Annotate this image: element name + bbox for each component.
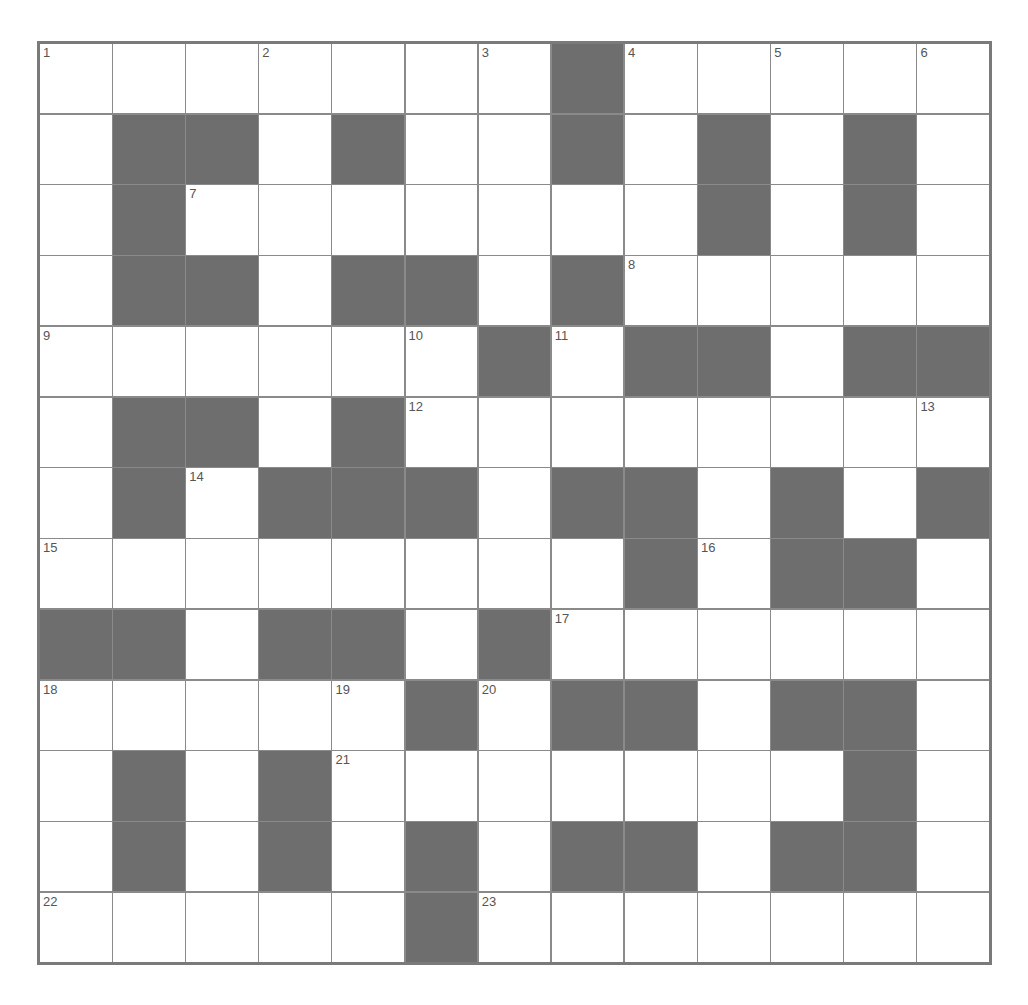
- answer-cell[interactable]: [771, 327, 843, 396]
- answer-cell[interactable]: [40, 398, 112, 467]
- answer-cell[interactable]: [406, 539, 478, 608]
- answer-cell[interactable]: [259, 327, 331, 396]
- answer-cell[interactable]: [479, 539, 551, 608]
- answer-cell[interactable]: [698, 681, 770, 750]
- answer-cell[interactable]: 19: [332, 681, 404, 750]
- answer-cell[interactable]: [113, 44, 185, 113]
- answer-cell[interactable]: 21: [332, 751, 404, 820]
- answer-cell[interactable]: [844, 610, 916, 679]
- answer-cell[interactable]: [844, 468, 916, 537]
- answer-cell[interactable]: [844, 256, 916, 325]
- answer-cell[interactable]: [771, 185, 843, 254]
- answer-cell[interactable]: [40, 822, 112, 891]
- answer-cell[interactable]: [259, 256, 331, 325]
- answer-cell[interactable]: [113, 539, 185, 608]
- answer-cell[interactable]: [332, 822, 404, 891]
- answer-cell[interactable]: 4: [625, 44, 697, 113]
- answer-cell[interactable]: [771, 893, 843, 962]
- answer-cell[interactable]: [406, 751, 478, 820]
- answer-cell[interactable]: 7: [186, 185, 258, 254]
- answer-cell[interactable]: [259, 398, 331, 467]
- answer-cell[interactable]: 8: [625, 256, 697, 325]
- answer-cell[interactable]: 17: [552, 610, 624, 679]
- answer-cell[interactable]: [113, 681, 185, 750]
- answer-cell[interactable]: [552, 185, 624, 254]
- answer-cell[interactable]: [917, 751, 989, 820]
- answer-cell[interactable]: [698, 893, 770, 962]
- answer-cell[interactable]: [625, 115, 697, 184]
- answer-cell[interactable]: [625, 610, 697, 679]
- answer-cell[interactable]: [186, 751, 258, 820]
- answer-cell[interactable]: [406, 44, 478, 113]
- answer-cell[interactable]: [552, 539, 624, 608]
- answer-cell[interactable]: [332, 327, 404, 396]
- answer-cell[interactable]: [917, 256, 989, 325]
- answer-cell[interactable]: [332, 44, 404, 113]
- answer-cell[interactable]: [479, 751, 551, 820]
- answer-cell[interactable]: [40, 115, 112, 184]
- answer-cell[interactable]: [259, 893, 331, 962]
- answer-cell[interactable]: [186, 893, 258, 962]
- answer-cell[interactable]: [698, 610, 770, 679]
- answer-cell[interactable]: [40, 751, 112, 820]
- answer-cell[interactable]: 12: [406, 398, 478, 467]
- answer-cell[interactable]: [186, 681, 258, 750]
- answer-cell[interactable]: [332, 185, 404, 254]
- answer-cell[interactable]: [844, 44, 916, 113]
- answer-cell[interactable]: 10: [406, 327, 478, 396]
- answer-cell[interactable]: 13: [917, 398, 989, 467]
- answer-cell[interactable]: [552, 751, 624, 820]
- answer-cell[interactable]: [917, 610, 989, 679]
- answer-cell[interactable]: [259, 185, 331, 254]
- answer-cell[interactable]: [186, 539, 258, 608]
- answer-cell[interactable]: [186, 610, 258, 679]
- answer-cell[interactable]: [552, 398, 624, 467]
- answer-cell[interactable]: [698, 256, 770, 325]
- answer-cell[interactable]: [186, 44, 258, 113]
- answer-cell[interactable]: [917, 115, 989, 184]
- answer-cell[interactable]: [917, 539, 989, 608]
- answer-cell[interactable]: [479, 256, 551, 325]
- answer-cell[interactable]: 16: [698, 539, 770, 608]
- answer-cell[interactable]: [259, 681, 331, 750]
- answer-cell[interactable]: [625, 751, 697, 820]
- answer-cell[interactable]: 1: [40, 44, 112, 113]
- answer-cell[interactable]: [332, 539, 404, 608]
- answer-cell[interactable]: [625, 185, 697, 254]
- answer-cell[interactable]: [113, 893, 185, 962]
- answer-cell[interactable]: [406, 185, 478, 254]
- answer-cell[interactable]: [771, 256, 843, 325]
- answer-cell[interactable]: [625, 893, 697, 962]
- answer-cell[interactable]: [844, 398, 916, 467]
- answer-cell[interactable]: [40, 256, 112, 325]
- answer-cell[interactable]: [771, 751, 843, 820]
- answer-cell[interactable]: 15: [40, 539, 112, 608]
- answer-cell[interactable]: [259, 539, 331, 608]
- answer-cell[interactable]: [917, 893, 989, 962]
- answer-cell[interactable]: [917, 681, 989, 750]
- answer-cell[interactable]: [332, 893, 404, 962]
- answer-cell[interactable]: [113, 327, 185, 396]
- answer-cell[interactable]: [698, 398, 770, 467]
- answer-cell[interactable]: 6: [917, 44, 989, 113]
- answer-cell[interactable]: 23: [479, 893, 551, 962]
- answer-cell[interactable]: 18: [40, 681, 112, 750]
- answer-cell[interactable]: [552, 893, 624, 962]
- answer-cell[interactable]: 22: [40, 893, 112, 962]
- answer-cell[interactable]: [917, 185, 989, 254]
- answer-cell[interactable]: [917, 822, 989, 891]
- answer-cell[interactable]: [40, 468, 112, 537]
- answer-cell[interactable]: [406, 610, 478, 679]
- answer-cell[interactable]: [406, 115, 478, 184]
- answer-cell[interactable]: [771, 115, 843, 184]
- answer-cell[interactable]: [259, 115, 331, 184]
- answer-cell[interactable]: [479, 115, 551, 184]
- answer-cell[interactable]: [771, 610, 843, 679]
- answer-cell[interactable]: [40, 185, 112, 254]
- answer-cell[interactable]: 9: [40, 327, 112, 396]
- answer-cell[interactable]: [479, 822, 551, 891]
- answer-cell[interactable]: [479, 398, 551, 467]
- answer-cell[interactable]: [844, 893, 916, 962]
- answer-cell[interactable]: [186, 822, 258, 891]
- answer-cell[interactable]: 5: [771, 44, 843, 113]
